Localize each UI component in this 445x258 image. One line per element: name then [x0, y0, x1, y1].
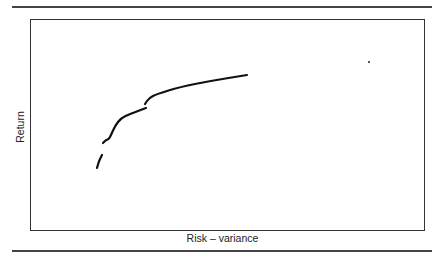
chart-plot — [0, 0, 445, 258]
frontier-segment-2 — [103, 108, 146, 143]
frontier-segment-3 — [145, 75, 247, 104]
x-axis-label: Risk – variance — [0, 232, 445, 244]
bottom-rule — [12, 250, 432, 252]
frontier-curve — [97, 75, 247, 168]
isolated-point — [368, 61, 370, 63]
y-axis-label: Return — [14, 111, 26, 143]
frontier-segment-1 — [97, 155, 102, 168]
